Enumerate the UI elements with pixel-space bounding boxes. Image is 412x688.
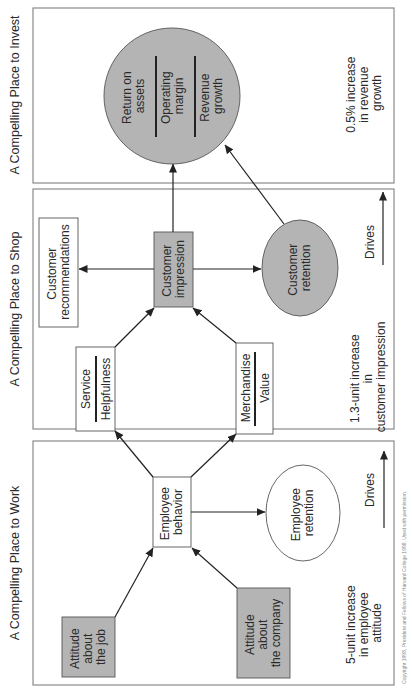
customer-retention-label: Customer retention: [286, 240, 313, 295]
invest-panel-title: A Compelling Place to Invest: [8, 15, 22, 175]
revenue-growth-label: Revenue growth: [198, 70, 225, 121]
work-panel-title: A Compelling Place to Work: [8, 485, 22, 640]
work-drives-label: Drives: [363, 473, 377, 507]
employee-retention-label: Employee retention: [289, 485, 316, 542]
service-profit-chain-diagram: A Compelling Place to Work A Compelling …: [0, 0, 412, 688]
shop-drives-label: Drives: [363, 225, 377, 259]
customer-impression-label: Customer impression: [160, 240, 187, 298]
shop-panel-title: A Compelling Place to Shop: [8, 231, 22, 386]
attitude-about-job-label: Attitude about the job: [68, 625, 108, 669]
employee-behavior-label: Employee behavior: [158, 484, 185, 541]
service-label: Service: [79, 369, 93, 409]
helpfulness-label: Helpfulness: [99, 358, 113, 421]
value-label: Value: [258, 373, 272, 403]
copyright-caption: Copyright 1998, President and Fellows of…: [401, 491, 407, 684]
merchandise-label: Merchandise: [239, 353, 253, 422]
